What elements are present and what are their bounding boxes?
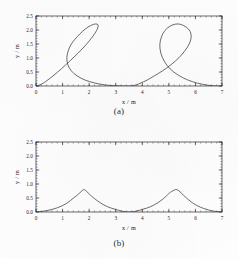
y-axis-title: y / m — [13, 44, 20, 58]
x-tick-label: 4 — [141, 89, 144, 95]
plot-frame — [36, 16, 222, 86]
y-tick-label: 0.0 — [26, 209, 33, 215]
x-tick-label: 0 — [35, 89, 38, 95]
x-tick-label: 7 — [221, 215, 224, 221]
y-tick-label: 2.5 — [26, 13, 33, 19]
y-tick-label: 1.0 — [26, 55, 33, 61]
panel-b-caption: (b) — [0, 238, 238, 248]
figure-container: 012345670.00.51.01.52.02.5x / my / m (a)… — [0, 0, 238, 259]
plot-frame — [36, 142, 222, 212]
x-axis-title: x / m — [122, 98, 136, 105]
x-tick-label: 3 — [114, 89, 117, 95]
y-tick-label: 1.5 — [26, 41, 33, 47]
y-tick-label: 2.5 — [26, 139, 33, 145]
y-tick-label: 1.5 — [26, 167, 33, 173]
x-tick-label: 2 — [88, 215, 91, 221]
x-tick-label: 7 — [221, 89, 224, 95]
y-tick-label: 0.5 — [26, 195, 33, 201]
x-tick-label: 1 — [61, 215, 64, 221]
y-tick-label: 2.0 — [26, 27, 33, 33]
x-axis-title: x / m — [122, 224, 136, 231]
y-axis-title: y / m — [13, 170, 20, 184]
x-tick-label: 4 — [141, 215, 144, 221]
x-tick-label: 1 — [61, 89, 64, 95]
x-tick-label: 0 — [35, 215, 38, 221]
panel-a-caption: (a) — [0, 106, 238, 116]
x-tick-label: 5 — [168, 89, 171, 95]
y-tick-label: 0.5 — [26, 69, 33, 75]
y-tick-label: 0.0 — [26, 83, 33, 89]
data-curve — [36, 189, 222, 212]
y-tick-label: 2.0 — [26, 153, 33, 159]
plot-b-svg: 012345670.00.51.01.52.02.5x / my / m — [0, 126, 238, 236]
x-tick-label: 2 — [88, 89, 91, 95]
x-tick-label: 6 — [194, 89, 197, 95]
plot-a-svg: 012345670.00.51.01.52.02.5x / my / m — [0, 0, 238, 110]
y-tick-label: 1.0 — [26, 181, 33, 187]
data-curve — [36, 24, 222, 86]
x-tick-label: 3 — [114, 215, 117, 221]
x-tick-label: 6 — [194, 215, 197, 221]
x-tick-label: 5 — [168, 215, 171, 221]
